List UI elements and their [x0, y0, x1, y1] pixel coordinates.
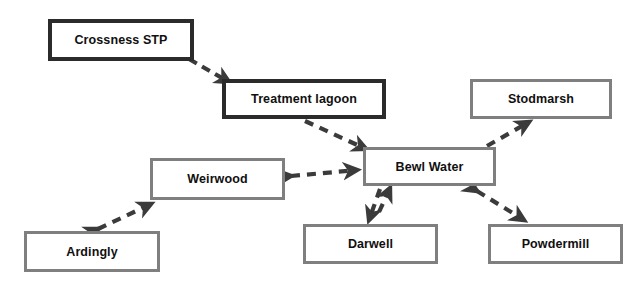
node-label-weirwood: Weirwood — [187, 172, 247, 186]
node-label-crossness-stp: Crossness STP — [74, 33, 167, 47]
node-label-ardingly: Ardingly — [66, 245, 118, 259]
edge-bewl-to-stodmarsh — [487, 122, 529, 146]
edge-ardingly-weirwood — [98, 204, 151, 229]
node-darwell[interactable]: Darwell — [303, 224, 438, 264]
diagram-canvas: Crossness STP Treatment lagoon Stodmarsh… — [0, 0, 631, 287]
edge-darwell-to-bewl — [379, 188, 390, 212]
edge-weirwood-bewl — [291, 170, 357, 176]
node-label-stodmarsh: Stodmarsh — [508, 92, 574, 106]
node-label-darwell: Darwell — [348, 237, 393, 251]
node-crossness-stp[interactable]: Crossness STP — [48, 19, 194, 61]
node-label-bewl-water: Bewl Water — [396, 160, 464, 174]
node-powdermill[interactable]: Powdermill — [488, 224, 623, 264]
edge-lagoon-to-bewl — [305, 121, 366, 149]
node-ardingly[interactable]: Ardingly — [24, 231, 160, 272]
node-stodmarsh[interactable]: Stodmarsh — [470, 79, 612, 119]
node-weirwood[interactable]: Weirwood — [150, 158, 285, 200]
node-treatment-lagoon[interactable]: Treatment lagoon — [222, 79, 386, 119]
edge-bewl-to-darwell — [369, 189, 380, 220]
node-label-powdermill: Powdermill — [522, 237, 590, 251]
node-bewl-water[interactable]: Bewl Water — [363, 147, 496, 186]
node-label-treatment-lagoon: Treatment lagoon — [251, 92, 357, 106]
edge-bewl-powdermill — [477, 191, 524, 220]
